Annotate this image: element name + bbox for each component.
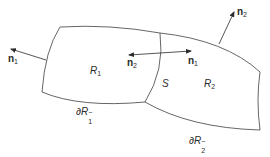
label-n2-top: n2 xyxy=(237,7,247,18)
label-boundary-r1-minus: ∂R−1 xyxy=(76,107,94,117)
normal-arrow-n1-interface xyxy=(160,51,191,53)
label-boundary-r2-minus: ∂R−2 xyxy=(189,136,207,146)
label-n2-interface: n2 xyxy=(127,58,137,69)
label-n1-interface: n1 xyxy=(188,56,198,67)
label-region-r2: R2 xyxy=(204,79,215,90)
normal-arrow-n2-interface xyxy=(129,53,160,55)
label-region-r1: R1 xyxy=(90,66,101,77)
label-interface-s: S xyxy=(162,79,169,89)
normal-arrow-n2-top xyxy=(219,12,234,44)
label-n1-left: n1 xyxy=(8,54,18,65)
region-r1-outline xyxy=(42,26,160,103)
interface-s-curve xyxy=(145,33,161,102)
diagram-canvas xyxy=(0,0,270,157)
